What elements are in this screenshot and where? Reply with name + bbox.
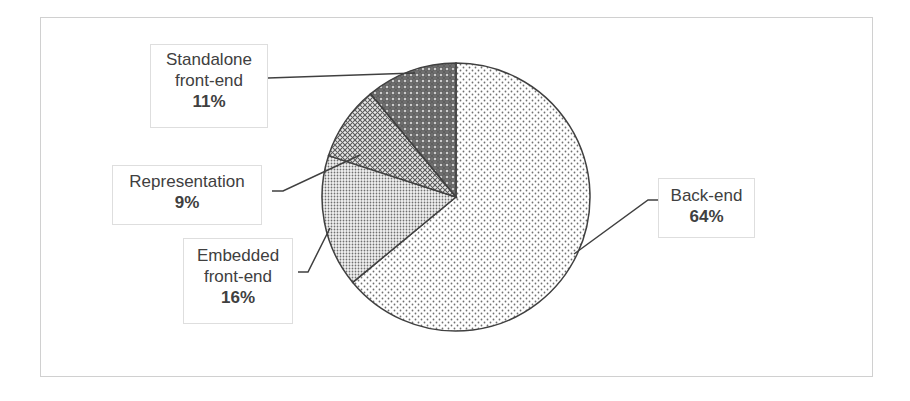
label-percent: 9%	[117, 192, 257, 213]
label-percent: 64%	[663, 206, 750, 227]
label-text: Representation	[117, 171, 257, 192]
leader-standalone	[268, 73, 415, 78]
label-representation: Representation 9%	[112, 165, 262, 225]
label-text: front-end	[155, 70, 263, 91]
label-text: Back-end	[663, 185, 750, 206]
label-standalone-front-end: Standalone front-end 11%	[150, 44, 268, 128]
label-text: front-end	[188, 266, 288, 287]
leader-embedded	[298, 228, 330, 272]
label-text: Embedded	[188, 245, 288, 266]
label-embedded-front-end: Embedded front-end 16%	[183, 238, 293, 324]
label-back-end: Back-end 64%	[658, 178, 755, 238]
label-percent: 11%	[155, 91, 263, 112]
label-percent: 16%	[188, 287, 288, 308]
label-text: Standalone	[155, 49, 263, 70]
